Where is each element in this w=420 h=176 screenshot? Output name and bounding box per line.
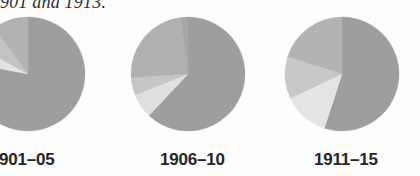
pie-label-2: 1911–15: [314, 150, 378, 170]
pie-svg-2: [284, 16, 400, 132]
pie-label-1: 1906–10: [160, 150, 225, 170]
pie-svg-1: [130, 16, 246, 132]
pie-chart-0: [0, 16, 86, 132]
pie-chart-2: [284, 16, 400, 132]
pie-chart-figure: 901 and 1913. 901–05 1906–10 1911–15: [0, 0, 420, 176]
pie-svg-0: [0, 16, 86, 132]
pie-chart-1: [130, 16, 246, 132]
pie-label-0: 901–05: [0, 150, 55, 170]
pie-slice-1-3: [131, 17, 188, 77]
